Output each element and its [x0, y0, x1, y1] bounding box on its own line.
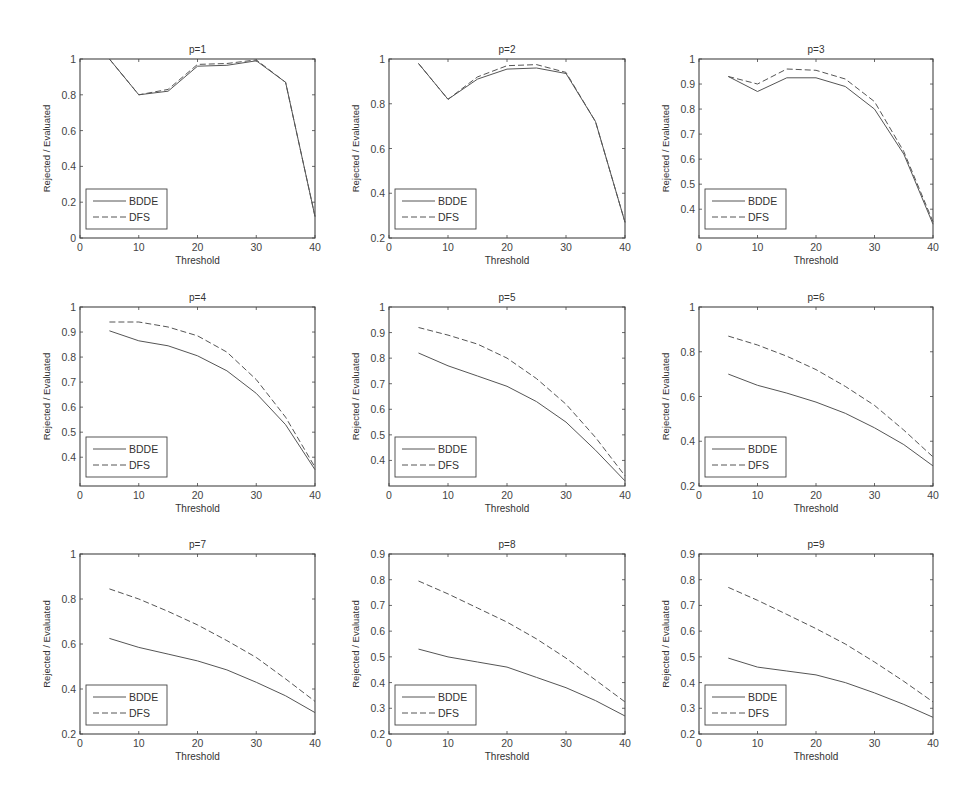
y-tick-label: 0.7	[61, 376, 76, 388]
y-axis-label: Rejected / Evaluated	[660, 105, 671, 193]
x-tick-label: 30	[250, 489, 262, 501]
x-tick-label: 20	[192, 241, 204, 253]
y-tick-label: 1	[379, 301, 385, 313]
y-tick-label: 0.6	[61, 638, 76, 650]
x-tick-label: 0	[386, 737, 392, 749]
x-tick-label: 30	[560, 737, 572, 749]
y-tick-label: 0.8	[680, 103, 695, 115]
x-tick-label: 10	[442, 241, 454, 253]
x-tick-label: 10	[752, 737, 764, 749]
x-tick-label: 30	[560, 241, 572, 253]
x-tick-label: 10	[752, 489, 764, 501]
x-axis-label: Threshold	[794, 503, 838, 514]
legend: BDDEDFS	[705, 685, 786, 725]
y-tick-label: 1	[689, 301, 695, 313]
y-tick-label: 0	[70, 232, 76, 244]
y-axis-label: Rejected / Evaluated	[350, 353, 361, 441]
y-axis-label: Rejected / Evaluated	[660, 353, 671, 441]
y-tick-label: 0.5	[680, 651, 695, 663]
legend-label-dfs: DFS	[748, 707, 769, 719]
subplot-8: p=80102030400.20.30.40.50.60.70.80.9Thre…	[350, 539, 631, 762]
x-tick-label: 0	[77, 489, 83, 501]
x-tick-label: 30	[250, 241, 262, 253]
x-tick-label: 10	[133, 489, 145, 501]
x-tick-label: 20	[192, 489, 204, 501]
subplot-3: p=30102030400.40.50.60.70.80.91Threshold…	[660, 44, 939, 266]
x-tick-label: 10	[442, 737, 454, 749]
x-axis-label: Threshold	[485, 751, 529, 762]
legend-label-bdde: BDDE	[438, 195, 467, 207]
y-tick-label: 1	[689, 53, 695, 65]
x-axis-label: Threshold	[175, 255, 219, 266]
legend-label-dfs: DFS	[438, 459, 459, 471]
y-tick-label: 0.8	[370, 352, 385, 364]
y-tick-label: 0.8	[680, 574, 695, 586]
x-axis-label: Threshold	[485, 255, 529, 266]
legend-label-bdde: BDDE	[438, 443, 467, 455]
y-tick-label: 0.4	[680, 435, 695, 447]
x-tick-label: 10	[752, 241, 764, 253]
legend-label-bdde: BDDE	[748, 195, 777, 207]
y-axis-label: Rejected / Evaluated	[41, 105, 52, 193]
y-tick-label: 0.4	[370, 677, 385, 689]
subplot-title: p=4	[189, 292, 206, 303]
y-tick-label: 1	[70, 548, 76, 560]
y-tick-label: 0.2	[680, 728, 695, 740]
x-axis-label: Threshold	[485, 503, 529, 514]
x-tick-label: 20	[810, 489, 822, 501]
x-tick-label: 20	[501, 737, 513, 749]
legend-label-bdde: BDDE	[129, 195, 158, 207]
x-tick-label: 10	[133, 241, 145, 253]
y-tick-label: 0.7	[370, 378, 385, 390]
y-tick-label: 0.8	[370, 574, 385, 586]
y-tick-label: 0.5	[61, 426, 76, 438]
y-axis-label: Rejected / Evaluated	[660, 600, 671, 688]
x-tick-label: 0	[696, 737, 702, 749]
y-tick-label: 0.6	[680, 153, 695, 165]
x-tick-label: 30	[560, 489, 572, 501]
x-axis-label: Threshold	[794, 255, 838, 266]
x-tick-label: 0	[696, 241, 702, 253]
y-tick-label: 0.2	[61, 196, 76, 208]
subplot-title: p=5	[499, 292, 516, 303]
y-axis-label: Rejected / Evaluated	[350, 105, 361, 193]
x-tick-label: 0	[386, 241, 392, 253]
legend-label-dfs: DFS	[748, 211, 769, 223]
y-tick-label: 0.8	[370, 98, 385, 110]
x-tick-label: 40	[309, 241, 321, 253]
y-tick-label: 0.4	[61, 451, 76, 463]
y-tick-label: 0.6	[61, 401, 76, 413]
legend: BDDEDFS	[395, 685, 476, 725]
subplot-2: p=20102030400.20.40.60.81ThresholdReject…	[350, 44, 631, 266]
y-tick-label: 0.6	[370, 403, 385, 415]
x-tick-label: 20	[810, 241, 822, 253]
legend-label-dfs: DFS	[129, 459, 150, 471]
y-tick-label: 0.5	[370, 429, 385, 441]
y-tick-label: 0.7	[680, 599, 695, 611]
y-tick-label: 0.6	[680, 625, 695, 637]
subplot-title: p=8	[499, 539, 516, 550]
legend: BDDEDFS	[86, 437, 167, 477]
x-tick-label: 20	[192, 737, 204, 749]
y-tick-label: 0.9	[61, 326, 76, 338]
x-tick-label: 40	[619, 489, 631, 501]
x-tick-label: 40	[927, 241, 939, 253]
legend: BDDEDFS	[395, 189, 476, 229]
x-tick-label: 30	[869, 737, 881, 749]
y-tick-label: 0.8	[61, 593, 76, 605]
y-tick-label: 0.8	[61, 89, 76, 101]
x-tick-label: 0	[696, 489, 702, 501]
legend-label-bdde: BDDE	[129, 443, 158, 455]
x-tick-label: 40	[309, 489, 321, 501]
legend-label-bdde: BDDE	[748, 691, 777, 703]
x-tick-label: 40	[927, 489, 939, 501]
y-tick-label: 0.7	[680, 128, 695, 140]
y-tick-label: 0.8	[61, 351, 76, 363]
y-tick-label: 1	[70, 53, 76, 65]
y-tick-label: 0.9	[370, 327, 385, 339]
y-tick-label: 0.5	[370, 651, 385, 663]
y-tick-label: 1	[379, 53, 385, 65]
subplot-4: p=40102030400.40.50.60.70.80.91Threshold…	[41, 292, 321, 514]
x-tick-label: 40	[309, 737, 321, 749]
y-tick-label: 0.3	[370, 702, 385, 714]
